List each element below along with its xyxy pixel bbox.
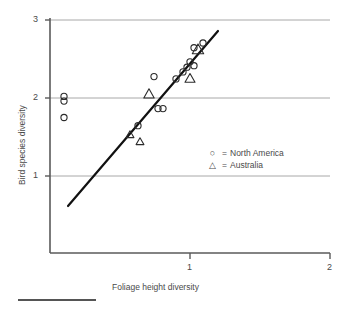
regression-line (68, 31, 218, 206)
data-point-triangle (144, 89, 154, 98)
data-point-circle (61, 114, 67, 120)
data-point-triangle (185, 74, 195, 83)
circle-marker-icon: ○ (206, 147, 219, 159)
triangle-marker-icon: △ (206, 159, 219, 171)
y-tick-label-3: 3 (33, 15, 38, 24)
data-point-circle (191, 63, 197, 69)
data-point-circle (61, 98, 67, 104)
x-tick-label-1: 1 (187, 263, 192, 272)
gridlines (50, 20, 330, 176)
figure-container: 3 2 1 1 2 Bird species diversity Foliage… (0, 0, 346, 309)
y-tick-label-1: 1 (33, 171, 38, 180)
legend-equals-sign: = (219, 159, 230, 171)
legend-row-north-america: ○ = North America (206, 147, 284, 159)
y-axis-title: Bird species diversity (18, 105, 27, 185)
legend-label-australia: Australia (230, 159, 263, 171)
x-tick-label-2: 2 (327, 263, 332, 272)
y-tick-label-2: 2 (33, 93, 38, 102)
tick-marks (45, 20, 330, 259)
axes-lines (50, 18, 330, 253)
legend-row-australia: △ = Australia (206, 159, 284, 171)
legend: ○ = North America △ = Australia (206, 147, 284, 171)
legend-label-north-america: North America (230, 147, 284, 159)
legend-equals-sign: = (219, 147, 230, 159)
data-point-circle (151, 74, 157, 80)
x-axis-title: Foliage height diversity (112, 283, 199, 292)
scatter-plot (0, 0, 346, 309)
data-point-circle (200, 40, 206, 46)
series-north-america-markers (61, 40, 206, 129)
data-point-triangle (136, 138, 144, 145)
